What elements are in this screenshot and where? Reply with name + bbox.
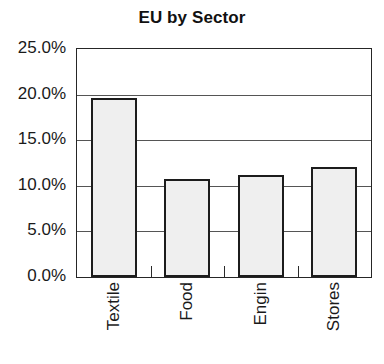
x-axis: TextileFoodEnginStores	[76, 282, 372, 364]
y-axis-tick-label: 25.0%	[18, 38, 66, 58]
y-axis-tick-label: 15.0%	[18, 129, 66, 149]
x-axis-tick	[224, 266, 225, 277]
y-axis-tick-label: 5.0%	[27, 220, 66, 240]
x-axis-tick	[151, 266, 152, 277]
gridline-20.0%	[77, 95, 371, 96]
y-axis: 0.0%5.0%10.0%15.0%20.0%25.0%	[0, 48, 70, 278]
x-axis-label-text: Stores	[325, 282, 342, 331]
bar-fill	[166, 181, 208, 275]
bar-chart: EU by Sector 0.0%5.0%10.0%15.0%20.0%25.0…	[0, 0, 384, 364]
bar-fill	[93, 100, 135, 275]
y-axis-tick-label: 20.0%	[18, 84, 66, 104]
bar-stores[interactable]	[311, 167, 357, 277]
chart-title: EU by Sector	[0, 8, 384, 28]
y-axis-tick-label: 10.0%	[18, 175, 66, 195]
y-axis-tick-label: 0.0%	[27, 266, 66, 286]
x-axis-label-text: Textile	[105, 282, 122, 330]
bar-textile[interactable]	[91, 98, 137, 277]
x-axis-label-engin: Engin	[223, 282, 297, 364]
x-axis-tick	[298, 266, 299, 277]
bar-fill	[240, 177, 282, 275]
bar-engin[interactable]	[238, 175, 284, 277]
x-axis-label-stores: Stores	[297, 282, 371, 364]
plot-area	[76, 48, 372, 278]
bar-fill	[313, 169, 355, 275]
x-axis-label-food: Food	[150, 282, 224, 364]
x-axis-label-text: Food	[178, 282, 195, 321]
bar-food[interactable]	[164, 179, 210, 277]
x-axis-label-text: Engin	[252, 282, 269, 325]
x-axis-label-textile: Textile	[76, 282, 150, 364]
